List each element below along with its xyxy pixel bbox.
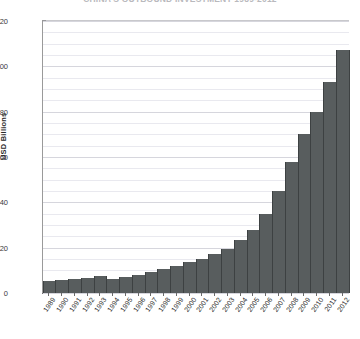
bar-1990[interactable]	[55, 280, 69, 293]
y-axis-tick-label: 0	[0, 289, 8, 298]
bar-2012[interactable]	[336, 50, 350, 293]
x-axis-tick-mark	[99, 293, 100, 296]
bar-1991[interactable]	[68, 279, 82, 293]
x-axis-tick-mark	[74, 293, 75, 296]
x-axis-tick-mark	[61, 293, 62, 296]
x-axis-tick-label: 2011	[323, 296, 338, 313]
x-axis-tick-label: 2008	[284, 296, 299, 313]
x-axis-tick-mark	[240, 293, 241, 296]
x-axis-tick-mark	[163, 293, 164, 296]
x-axis-tick-label: 1992	[80, 296, 95, 313]
x-axis-tick-label: 1994	[106, 296, 121, 313]
x-axis-tick-mark	[278, 293, 279, 296]
x-axis-tick-label: 1997	[144, 296, 159, 313]
x-axis-tick-label: 1990	[55, 296, 70, 313]
bar-2005[interactable]	[247, 230, 261, 293]
y-axis-tick-label: 120	[0, 17, 8, 26]
x-axis-tick-mark	[87, 293, 88, 296]
y-axis-tick-label: 100	[0, 62, 8, 71]
x-axis-tick-label: 1999	[170, 296, 185, 313]
x-axis-tick-label: 1991	[68, 296, 83, 313]
x-axis-tick-label: 2006	[259, 296, 274, 313]
bar-1996[interactable]	[132, 275, 146, 293]
x-axis-tick-mark	[227, 293, 228, 296]
y-axis-tick-label: 80	[0, 107, 8, 116]
x-axis-tick-label: 2009	[297, 296, 312, 313]
bar-2001[interactable]	[196, 259, 210, 293]
bar-1989[interactable]	[43, 281, 57, 293]
bar-1993[interactable]	[94, 276, 108, 293]
x-axis-tick-label: 2004	[233, 296, 248, 313]
bar-2007[interactable]	[272, 191, 286, 293]
y-axis-tick-label: 60	[0, 153, 8, 162]
bar-1998[interactable]	[157, 269, 171, 293]
chart-root: CHINA'S OUTBOUND INVESTMENT 1989-2012 US…	[0, 0, 360, 339]
y-axis-tick-label: 20	[0, 243, 8, 252]
x-axis-tick-mark	[291, 293, 292, 296]
x-axis-tick-label: 2005	[246, 296, 261, 313]
x-axis-tick-label: 1998	[157, 296, 172, 313]
x-axis-tick-mark	[112, 293, 113, 296]
x-axis-labels: 1989199019911992199319941995199619971998…	[42, 296, 348, 338]
x-axis-tick-label: 2007	[272, 296, 287, 313]
bar-2000[interactable]	[183, 262, 197, 293]
x-axis-tick-mark	[48, 293, 49, 296]
x-axis-tick-label: 2010	[310, 296, 325, 313]
bar-2008[interactable]	[285, 162, 299, 293]
x-axis-tick-label: 1993	[93, 296, 108, 313]
bar-1999[interactable]	[170, 266, 184, 293]
bar-1994[interactable]	[106, 279, 120, 293]
x-axis-tick-label: 2001	[195, 296, 210, 313]
x-axis-tick-mark	[189, 293, 190, 296]
x-axis-tick-mark	[214, 293, 215, 296]
bar-2011[interactable]	[323, 82, 337, 293]
x-axis-tick-mark	[125, 293, 126, 296]
chart-title-clipped: CHINA'S OUTBOUND INVESTMENT 1989-2012	[0, 0, 360, 5]
x-axis-tick-mark	[316, 293, 317, 296]
bar-2003[interactable]	[221, 249, 235, 293]
x-axis-tick-mark	[329, 293, 330, 296]
x-axis-tick-mark	[265, 293, 266, 296]
bar-1992[interactable]	[81, 278, 95, 293]
x-axis-tick-label: 1989	[42, 296, 57, 313]
bar-2010[interactable]	[310, 112, 324, 293]
bar-1995[interactable]	[119, 277, 133, 293]
bar-2002[interactable]	[208, 254, 222, 293]
x-axis-tick-label: 2003	[221, 296, 236, 313]
y-axis-tick-label: 40	[0, 198, 8, 207]
chart-title: CHINA'S OUTBOUND INVESTMENT 1989-2012	[0, 0, 360, 5]
x-axis-tick-mark	[252, 293, 253, 296]
x-axis-tick-mark	[176, 293, 177, 296]
bar-1997[interactable]	[145, 272, 159, 293]
x-axis-tick-mark	[150, 293, 151, 296]
x-axis-tick-mark	[201, 293, 202, 296]
x-axis-tick-mark	[138, 293, 139, 296]
bar-series	[43, 21, 349, 293]
x-axis-tick-label: 2002	[208, 296, 223, 313]
x-axis-tick-label: 1995	[119, 296, 134, 313]
x-axis-tick-mark	[342, 293, 343, 296]
x-axis-tick-mark	[303, 293, 304, 296]
bar-2006[interactable]	[259, 214, 273, 293]
bar-2004[interactable]	[234, 240, 248, 293]
x-axis-tick-label: 1996	[131, 296, 146, 313]
plot-area	[42, 21, 349, 294]
x-axis-tick-label: 2000	[182, 296, 197, 313]
x-axis-tick-label: 2012	[335, 296, 350, 313]
bar-2009[interactable]	[298, 134, 312, 293]
